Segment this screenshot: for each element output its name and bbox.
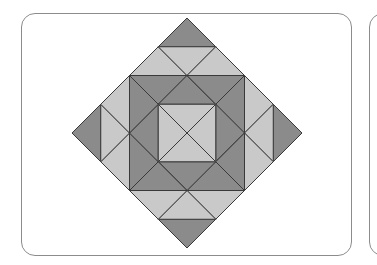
quilt-pattern-diagram	[0, 0, 377, 265]
top-tip-triangle	[158, 18, 216, 47]
bottom-tip-triangle	[158, 219, 216, 248]
right-tip-triangle	[273, 104, 302, 162]
left-tip-triangle	[72, 104, 101, 162]
